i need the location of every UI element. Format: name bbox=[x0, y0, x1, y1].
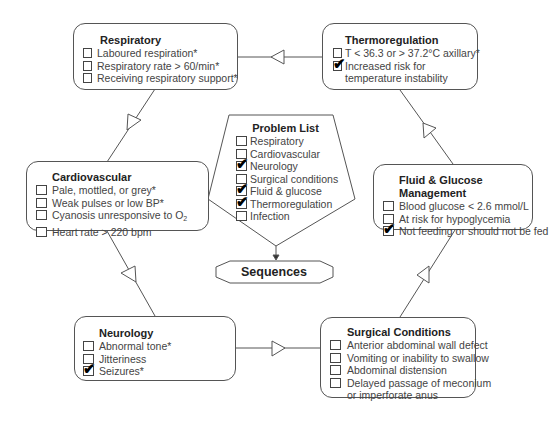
thermoregulation-box: Thermoregulation T < 36.3 or > 37.2°C ax… bbox=[322, 23, 478, 90]
item-label: Vomiting or inability to swallow bbox=[347, 352, 489, 364]
checkbox[interactable] bbox=[36, 185, 47, 195]
item-label: T < 36.3 or > 37.2°C axillary* bbox=[345, 47, 480, 59]
item-label: Laboured respiration* bbox=[97, 47, 197, 59]
item-label: Cyanosis unresponsive to O bbox=[52, 209, 183, 221]
respiratory-title: Respiratory bbox=[100, 34, 237, 47]
item-label: Weak pulses or low BP* bbox=[52, 197, 164, 209]
surgical-item: Anterior abdominal wall defect bbox=[330, 339, 475, 352]
fluid-glucose-title: Fluid & Glucose Management bbox=[399, 174, 532, 200]
surgical-title: Surgical Conditions bbox=[347, 326, 475, 339]
item-label: Fluid & glucose bbox=[250, 185, 322, 197]
checkmark-icon: ✔ bbox=[333, 56, 346, 71]
cardiovascular-item: Cyanosis unresponsive to O2 bbox=[36, 209, 208, 226]
surgical-item: Vomiting or inability to swallow bbox=[330, 352, 475, 365]
item-label: Thermoregulation bbox=[250, 198, 332, 210]
item-label: Respiratory bbox=[250, 135, 304, 147]
problem-list-item: ✔Neurology bbox=[236, 160, 353, 173]
surgical-conditions-box: Surgical Conditions Anterior abdominal w… bbox=[320, 317, 476, 398]
respiratory-item: Laboured respiration* bbox=[83, 47, 237, 60]
checkbox[interactable] bbox=[236, 136, 247, 146]
thermoregulation-item-cont: temperature instability bbox=[333, 72, 477, 85]
problem-list-item: Respiratory bbox=[236, 135, 353, 148]
checkbox[interactable] bbox=[36, 198, 47, 208]
checkbox[interactable] bbox=[330, 365, 341, 375]
fluid-glucose-box: Fluid & Glucose Management Blood glucose… bbox=[373, 164, 533, 230]
arrowhead-right bbox=[272, 341, 285, 356]
item-label: Cardiovascular bbox=[250, 148, 320, 160]
item-label: Heart rate > 220 bpm bbox=[52, 226, 152, 238]
sequences-button[interactable]: Sequences bbox=[215, 262, 333, 282]
item-label: Anterior abdominal wall defect bbox=[347, 339, 488, 351]
checkbox[interactable] bbox=[330, 378, 341, 388]
item-label: Abdominal distension bbox=[347, 364, 447, 376]
thermoregulation-item: T < 36.3 or > 37.2°C axillary* bbox=[333, 47, 477, 60]
fluid-glucose-item: At risk for hypoglycemia bbox=[383, 213, 532, 226]
cardiovascular-box: Cardiovascular Pale, mottled, or grey* W… bbox=[26, 161, 209, 231]
item-label: Blood glucose < 2.6 mmol/L bbox=[399, 200, 529, 212]
arrowhead-down bbox=[127, 114, 141, 130]
item-label: Jitteriness bbox=[99, 353, 146, 365]
checkbox[interactable] bbox=[36, 210, 47, 220]
item-label: Neurology bbox=[250, 160, 298, 172]
checkbox[interactable] bbox=[83, 48, 92, 58]
checkbox[interactable] bbox=[236, 211, 247, 221]
item-label: At risk for hypoglycemia bbox=[399, 213, 510, 225]
cardiovascular-item: Heart rate > 220 bpm bbox=[36, 226, 208, 239]
neurology-item: Jitteriness bbox=[83, 353, 235, 366]
item-label: Delayed passage of meconium bbox=[347, 377, 491, 389]
problem-list-item: Infection bbox=[236, 210, 353, 223]
item-label: temperature instability bbox=[345, 72, 448, 84]
item-label: Not feeding or should not be fed bbox=[399, 225, 548, 237]
checkbox[interactable] bbox=[36, 227, 47, 237]
neurology-title: Neurology bbox=[99, 327, 235, 340]
respiratory-item: Receiving respiratory support* bbox=[83, 72, 237, 85]
cardiovascular-title: Cardiovascular bbox=[52, 171, 208, 184]
item-label: Respiratory rate > 60/min* bbox=[97, 60, 219, 72]
checkmark-icon: ✔ bbox=[236, 194, 249, 209]
fluid-glucose-item: Blood glucose < 2.6 mmol/L bbox=[383, 200, 532, 213]
item-label: or imperforate anus bbox=[347, 389, 438, 401]
checkmark-icon: ✔ bbox=[236, 156, 249, 171]
problem-list-title: Problem List bbox=[218, 122, 353, 135]
surgical-item-cont: or imperforate anus bbox=[330, 389, 475, 402]
problem-list-item: Surgical conditions bbox=[236, 173, 353, 186]
item-label: Abnormal tone* bbox=[99, 340, 171, 352]
cardiovascular-item: Weak pulses or low BP* bbox=[36, 197, 208, 210]
item-label: Seizures* bbox=[99, 365, 144, 377]
surgical-item: Abdominal distension bbox=[330, 364, 475, 377]
checkbox[interactable] bbox=[83, 73, 92, 83]
arrowhead-up-right bbox=[423, 123, 436, 138]
neurology-box: Neurology Abnormal tone* Jitteriness ✔Se… bbox=[74, 316, 236, 381]
checkbox[interactable] bbox=[330, 340, 341, 350]
fluid-glucose-item: ✔Not feeding or should not be fed bbox=[383, 225, 532, 238]
checkbox[interactable] bbox=[330, 353, 341, 363]
problem-list-item: Cardiovascular bbox=[236, 148, 353, 161]
item-label: Pale, mottled, or grey* bbox=[52, 184, 156, 196]
item-label: Surgical conditions bbox=[250, 173, 338, 185]
arrowhead-small-down bbox=[273, 255, 279, 260]
respiratory-item: Respiratory rate > 60/min* bbox=[83, 60, 237, 73]
checkmark-icon: ✔ bbox=[383, 221, 396, 236]
checkbox[interactable] bbox=[383, 201, 394, 211]
thermoregulation-title: Thermoregulation bbox=[345, 34, 477, 47]
checkbox[interactable] bbox=[83, 61, 92, 71]
problem-list: Problem List Respiratory Cardiovascular … bbox=[228, 122, 353, 223]
item-label: Infection bbox=[250, 210, 290, 222]
neurology-item: ✔Seizures* bbox=[83, 365, 235, 378]
item-label: Receiving respiratory support* bbox=[97, 72, 238, 84]
problem-list-item: ✔Fluid & glucose bbox=[236, 185, 353, 198]
item-label: Increased risk for bbox=[345, 60, 426, 72]
checkbox[interactable] bbox=[83, 341, 94, 351]
cardiovascular-item: Pale, mottled, or grey* bbox=[36, 184, 208, 197]
respiratory-box: Respiratory Laboured respiration* Respir… bbox=[73, 23, 238, 90]
checkmark-icon: ✔ bbox=[83, 361, 96, 376]
problem-list-item: ✔Thermoregulation bbox=[236, 198, 353, 211]
subscript: 2 bbox=[183, 215, 187, 222]
surgical-item: Delayed passage of meconium bbox=[330, 377, 475, 390]
arrowhead-left bbox=[271, 50, 284, 64]
thermoregulation-item: ✔Increased risk for bbox=[333, 60, 477, 73]
neurology-item: Abnormal tone* bbox=[83, 340, 235, 353]
